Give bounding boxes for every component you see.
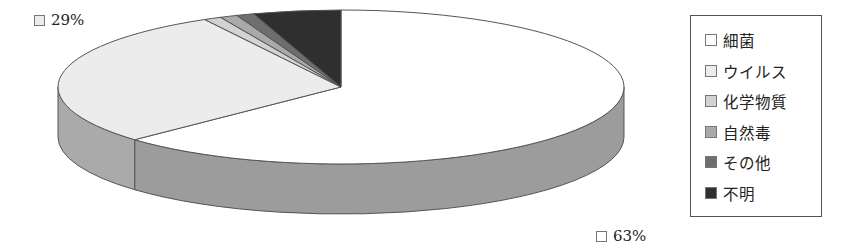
legend-item-other: その他: [705, 147, 821, 178]
legend-label: 自然毒: [723, 121, 771, 143]
legend-swatch-icon: [705, 156, 717, 168]
legend-label: 細菌: [723, 29, 755, 51]
bacteria-swatch-icon: [596, 231, 607, 242]
chart-legend: 細菌 ウイルス 化学物質 自然毒 その他 不明: [690, 15, 822, 217]
legend-label: 不明: [723, 182, 755, 204]
virus-swatch-icon: [34, 15, 45, 26]
data-label-bacteria: 63%: [596, 227, 646, 245]
legend-swatch-icon: [705, 34, 717, 46]
legend-label: 化学物質: [723, 90, 787, 112]
legend-item-natural-toxin: 自然毒: [705, 117, 821, 148]
legend-label: ウイルス: [723, 60, 787, 82]
legend-swatch-icon: [705, 65, 717, 77]
data-label-virus: 29%: [34, 11, 84, 29]
legend-item-bacteria: 細菌: [705, 25, 821, 56]
legend-item-unknown: 不明: [705, 178, 821, 209]
virus-percent: 29%: [51, 11, 84, 29]
legend-label: その他: [723, 151, 771, 173]
bacteria-percent: 63%: [613, 227, 646, 245]
legend-item-chemical: 化学物質: [705, 86, 821, 117]
legend-item-virus: ウイルス: [705, 56, 821, 87]
legend-swatch-icon: [705, 126, 717, 138]
legend-swatch-icon: [705, 187, 717, 199]
legend-swatch-icon: [705, 95, 717, 107]
